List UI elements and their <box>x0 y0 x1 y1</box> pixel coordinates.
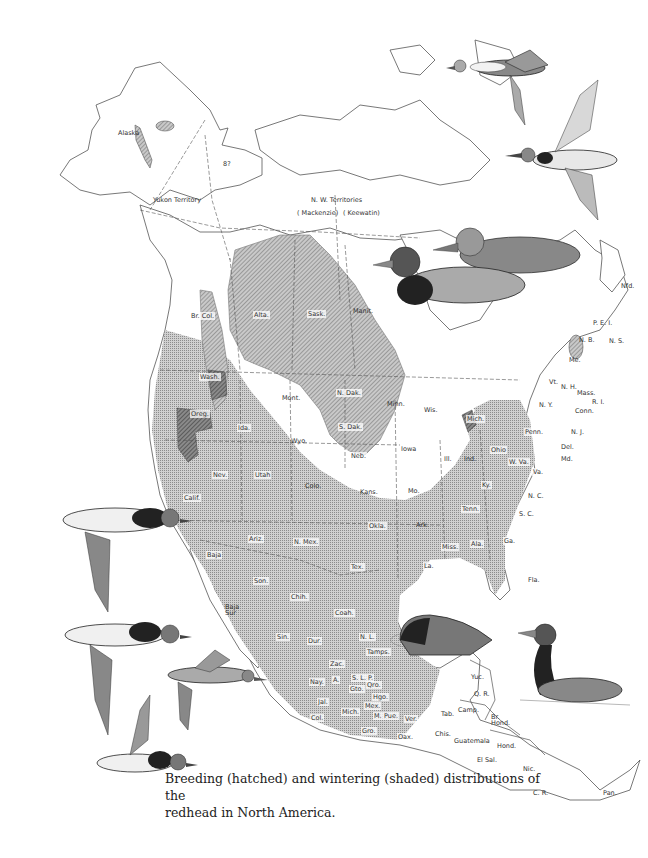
label-pei: P. E. I. <box>592 319 613 327</box>
label-ny: N. Y. <box>538 401 554 409</box>
label-ri: R. I. <box>591 398 605 406</box>
label-gro: Gro. <box>361 727 377 735</box>
figure-caption: Breeding (hatched) and wintering (shaded… <box>165 770 545 821</box>
label-neb: Neb. <box>350 452 367 460</box>
label-la: La. <box>423 562 435 570</box>
label-alaska: Alaska <box>117 129 140 137</box>
label-n-mex: N. Mex. <box>293 538 319 546</box>
flying-duck-icon <box>446 50 548 125</box>
label-sin: Sin. <box>276 633 290 641</box>
label-iowa: Iowa <box>400 445 417 453</box>
label-conn: Conn. <box>574 407 595 415</box>
label-pan: Pan. <box>602 789 618 797</box>
label-el-sal: El Sal. <box>476 756 498 764</box>
label-ns: N. S. <box>608 337 625 345</box>
label-ags: A. <box>332 676 340 684</box>
label-vt: Vt. <box>548 378 559 386</box>
label-miss: Miss. <box>441 543 459 551</box>
label-mich-mx: Mich. <box>341 708 360 716</box>
resting-duck-icon <box>391 615 493 655</box>
flying-duck-icon <box>63 508 192 612</box>
label-hond: Hond. <box>496 742 517 750</box>
label-va: Va. <box>532 468 544 476</box>
label-tamps: Tamps. <box>366 648 391 656</box>
label-ohio: Ohio <box>490 446 507 454</box>
label-tab: Tab. <box>440 710 455 718</box>
label-colo: Colo. <box>304 482 322 490</box>
label-tex: Tex. <box>350 563 365 571</box>
label-penn: Penn. <box>524 428 544 436</box>
label-dur: Dur. <box>307 637 322 645</box>
label-keewatin: ( Keewatin) <box>342 209 381 217</box>
label-alta: Alta. <box>253 311 270 319</box>
label-mor: M. <box>373 712 383 720</box>
label-n-dak: N. Dak. <box>336 389 362 397</box>
label-chih: Chih. <box>290 593 309 601</box>
label-okla: Okla. <box>368 522 387 530</box>
label-minn: Minn. <box>386 400 406 408</box>
label-mo: Mo. <box>407 487 421 495</box>
label-baja-sur: Baja Sur <box>224 604 240 616</box>
label-fla: Fla. <box>527 576 541 584</box>
label-qro: Qro. <box>366 681 382 689</box>
label-mex: Mex. <box>364 702 381 710</box>
label-utah: Utah <box>254 471 271 479</box>
label-son: Son. <box>253 577 269 585</box>
label-ida: Ida. <box>237 424 251 432</box>
label-nl: N. L. <box>359 633 376 641</box>
label-calif: Calif. <box>183 494 201 502</box>
label-nc: N. C. <box>527 492 545 500</box>
label-ga: Ga. <box>503 537 516 545</box>
label-hgo: Hgo. <box>372 693 389 701</box>
label-guatemala: Guatemala <box>453 737 491 745</box>
label-w-va: W. Va. <box>508 458 530 466</box>
label-pue: Pue. <box>383 712 399 720</box>
label-chis: Chis. <box>434 730 452 738</box>
label-ver: Ver. <box>404 715 418 723</box>
label-sask: Sask. <box>307 310 326 318</box>
label-tenn: Tenn. <box>461 505 480 513</box>
label-wash: Wash. <box>199 373 221 381</box>
label-col: Col. <box>310 714 324 722</box>
label-ind: Ind. <box>463 455 477 463</box>
label-qr: Q. R. <box>473 690 491 698</box>
label-yuc: Yuc. <box>470 673 485 681</box>
caption-line-2: redhead in North America. <box>165 804 545 821</box>
label-coah: Coah. <box>334 609 355 617</box>
label-del: Del. <box>560 443 575 451</box>
redhead-distribution-figure: Alaska Yukon Territory 8? N. W. Territor… <box>0 0 648 858</box>
label-nb: N. B. <box>578 336 596 344</box>
label-br-col: Br. Col. <box>190 312 215 320</box>
label-ark: Ark. <box>415 521 430 529</box>
label-ill: Ill. <box>443 455 453 463</box>
label-mass: Mass. <box>576 389 596 397</box>
label-md: Md. <box>560 455 574 463</box>
label-nay: Nay. <box>309 678 325 686</box>
label-jal: Jal. <box>317 698 329 706</box>
label-s-dak: S. Dak. <box>338 423 363 431</box>
label-baja: Baja <box>206 551 222 559</box>
label-nev: Nev. <box>212 471 228 479</box>
label-mont: Mont. <box>281 394 301 402</box>
swimming-ducks-icon <box>373 228 580 305</box>
label-wis: Wis. <box>423 406 439 414</box>
label-mich: Mich. <box>466 415 485 423</box>
label-unknown-marker: 8? <box>222 160 232 168</box>
label-wyo: Wyo. <box>290 437 308 445</box>
label-me: Me. <box>568 356 582 364</box>
label-kans: Kans. <box>359 488 379 496</box>
caption-line-1: Breeding (hatched) and wintering (shaded… <box>165 770 545 804</box>
label-oax: Oax. <box>397 733 414 741</box>
label-ala: Ala. <box>470 540 484 548</box>
label-yukon: Yukon Territory <box>152 196 202 204</box>
label-sc: S. C. <box>518 510 535 518</box>
label-zac: Zac. <box>329 660 345 668</box>
label-mackenzie: ( Mackenzie) <box>296 209 339 217</box>
label-ky: Ky. <box>481 481 492 489</box>
label-br-hond: Br. Hond. <box>490 714 514 726</box>
label-manit: Manit. <box>352 307 374 315</box>
label-camp: Camp. <box>457 706 480 714</box>
duck-illustrations <box>0 0 648 858</box>
flying-duck-icon <box>168 650 268 730</box>
swimming-duck-icon <box>518 624 630 705</box>
